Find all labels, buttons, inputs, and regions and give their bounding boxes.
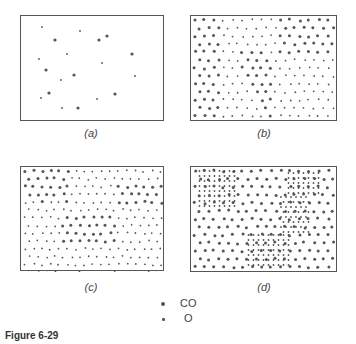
legend-o-label: O [184,312,193,324]
panel-a [20,15,164,121]
panel-c-dots [21,167,165,272]
legend-co-label: CO [180,297,197,309]
caption-d: (d) [234,281,294,293]
caption-b: (b) [234,127,294,139]
caption-a: (a) [61,127,121,139]
panel-b-dots [191,16,338,122]
co-dot-icon [161,302,165,306]
panel-a-dots [21,16,165,122]
panel-d-dots [191,167,338,273]
figure-title: Figure 6-29 [5,330,58,341]
panel-c [20,166,164,271]
panel-d [190,166,337,272]
o-dot-icon [162,318,165,321]
panel-b [190,15,337,121]
caption-c: (c) [61,281,121,293]
